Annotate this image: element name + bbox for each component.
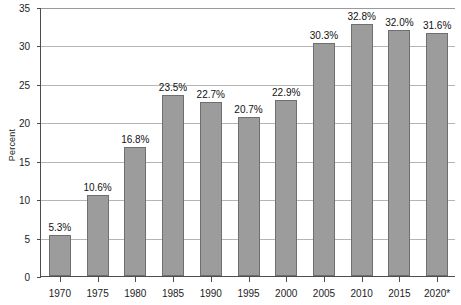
bar <box>426 33 448 276</box>
y-axis-tick-label: 30 <box>0 41 30 52</box>
x-axis-tick-label: 2005 <box>313 288 335 299</box>
bar <box>351 24 373 276</box>
x-axis-tick-label: 2000 <box>275 288 297 299</box>
bar-value-label: 16.8% <box>121 134 149 145</box>
y-axis-tick-mark <box>37 85 41 86</box>
x-axis-tick-label: 2010 <box>351 288 373 299</box>
bar-value-label: 32.0% <box>385 17 413 28</box>
bar-value-label: 5.3% <box>48 222 71 233</box>
x-axis-tick-mark <box>98 277 99 282</box>
bar <box>87 195 109 276</box>
gridline <box>41 8 455 9</box>
x-axis-tick-mark <box>249 277 250 282</box>
bar <box>49 235 71 276</box>
bar <box>388 30 410 276</box>
x-axis-tick-label: 1975 <box>86 288 108 299</box>
bar <box>162 95 184 276</box>
x-axis-tick-label: 1980 <box>124 288 146 299</box>
x-axis-tick-label: 1995 <box>237 288 259 299</box>
bar <box>275 100 297 276</box>
y-axis-tick-mark <box>37 162 41 163</box>
bar-value-label: 10.6% <box>83 182 111 193</box>
x-axis-tick-label: 1970 <box>49 288 71 299</box>
bar <box>124 147 146 276</box>
bar-value-label: 32.8% <box>347 11 375 22</box>
bar-value-label: 31.6% <box>423 20 451 31</box>
y-axis-tick-label: 20 <box>0 118 30 129</box>
y-axis-tick-label: 25 <box>0 79 30 90</box>
x-axis-tick-mark <box>135 277 136 282</box>
y-axis-tick-mark <box>37 123 41 124</box>
x-axis-tick-mark <box>324 277 325 282</box>
y-axis-tick-label: 5 <box>0 233 30 244</box>
bar-chart: Percent 051015202530355.3%197010.6%19751… <box>0 0 461 305</box>
x-axis-tick-mark <box>437 277 438 282</box>
y-axis-tick-mark <box>37 8 41 9</box>
x-axis-tick-label: 1990 <box>200 288 222 299</box>
bar <box>200 102 222 276</box>
x-axis-tick-label: 2015 <box>388 288 410 299</box>
x-axis-tick-mark <box>362 277 363 282</box>
y-axis-tick-label: 10 <box>0 195 30 206</box>
bar-value-label: 22.9% <box>272 87 300 98</box>
bar-value-label: 23.5% <box>159 82 187 93</box>
y-axis-tick-mark <box>37 46 41 47</box>
x-axis-tick-mark <box>286 277 287 282</box>
bar <box>313 43 335 276</box>
y-axis-tick-label: 35 <box>0 3 30 14</box>
y-axis-tick-mark <box>37 277 41 278</box>
bar-value-label: 30.3% <box>310 30 338 41</box>
y-axis-tick-label: 15 <box>0 156 30 167</box>
x-axis-tick-mark <box>60 277 61 282</box>
bar <box>238 117 260 276</box>
x-axis-tick-mark <box>173 277 174 282</box>
bar-value-label: 22.7% <box>197 89 225 100</box>
plot-area: 051015202530355.3%197010.6%197516.8%1980… <box>40 8 455 277</box>
x-axis-tick-label: 2020* <box>424 288 450 299</box>
x-axis-tick-mark <box>211 277 212 282</box>
bar-value-label: 20.7% <box>234 104 262 115</box>
x-axis-tick-mark <box>399 277 400 282</box>
y-axis-tick-mark <box>37 200 41 201</box>
x-axis-tick-label: 1985 <box>162 288 184 299</box>
y-axis-tick-label: 0 <box>0 272 30 283</box>
y-axis-tick-mark <box>37 239 41 240</box>
